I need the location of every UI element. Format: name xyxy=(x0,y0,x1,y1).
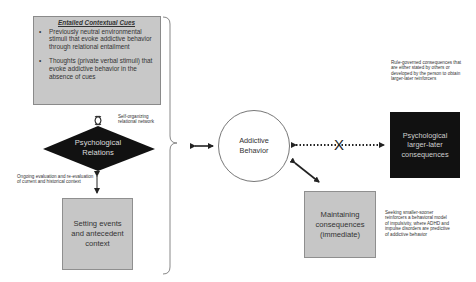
setting-events-label: Setting events and antecedent context xyxy=(69,219,126,249)
impulsivity-note: Seeking smaller-sooner reinforcers a beh… xyxy=(385,210,451,237)
grouping-brace xyxy=(163,17,177,274)
addictive-behavior-circle: Addictive Behavior xyxy=(218,110,290,182)
entailed-contextual-cues-box: Entailed Contextual Cues Previously neut… xyxy=(33,16,161,105)
loop-icon xyxy=(95,117,101,125)
circle-label-line2: Behavior xyxy=(239,146,269,156)
cue-bullet: Thoughts (private verbal stimuli) that e… xyxy=(37,57,156,80)
loop-note: Self-organizing relational network xyxy=(118,114,168,125)
larger-later-consequences-box: Psychological larger-later consequences xyxy=(390,112,460,178)
cues-title: Entailed Contextual Cues xyxy=(37,19,156,27)
maintaining-consequences-box: Maintaining consequences (immediate) xyxy=(304,191,376,258)
diamond-label-line1: Psychological xyxy=(58,138,138,148)
diamond-label: Psychological Relations xyxy=(58,138,138,158)
circle-label-line1: Addictive xyxy=(239,136,269,146)
rule-governed-note: Rule-governed consequences that are eith… xyxy=(391,60,461,82)
blocked-x-marker: X xyxy=(334,136,344,154)
larger-later-label: Psychological larger-later consequences xyxy=(390,131,460,160)
behavior-maintaining-arrow xyxy=(295,163,319,182)
cue-bullet: Previously neutral environmental stimuli… xyxy=(37,28,156,51)
evaluation-note: Ongoing evaluation and re-evaluation of … xyxy=(17,174,95,185)
diamond-label-line2: Relations xyxy=(58,148,138,158)
maintaining-label: Maintaining consequences (immediate) xyxy=(309,210,371,240)
setting-events-box: Setting events and antecedent context xyxy=(62,198,133,270)
